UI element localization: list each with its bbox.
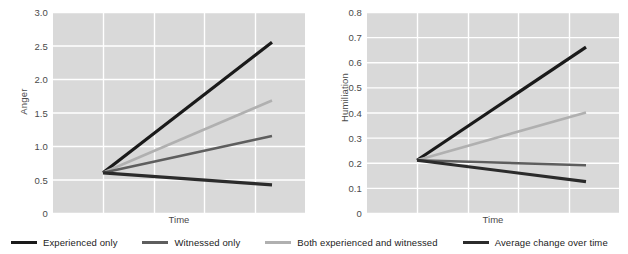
y-tick-label: 0.5 bbox=[348, 82, 362, 93]
y-tick-label: 1.5 bbox=[34, 107, 48, 118]
legend-swatch-experienced_only bbox=[11, 241, 37, 244]
y-tick-label: 0.3 bbox=[348, 132, 362, 143]
legend-item-average[interactable]: Average change over time bbox=[463, 237, 608, 248]
chart-panel-anger: Anger 00.51.01.52.02.53.0 Time bbox=[0, 0, 314, 230]
legend-label-average: Average change over time bbox=[495, 237, 608, 248]
y-tick-label: 0.1 bbox=[348, 182, 362, 193]
y-axis-ticks-right: 00.10.20.30.40.50.60.70.8 bbox=[336, 12, 362, 213]
gridlines bbox=[367, 12, 619, 213]
legend-label-witnessed_only: Witnessed only bbox=[174, 237, 240, 248]
legend-swatch-witnessed_only bbox=[142, 241, 168, 244]
x-axis-title-left: Time bbox=[53, 214, 305, 225]
legend-label-experienced_only: Experienced only bbox=[43, 237, 117, 248]
series-line bbox=[417, 113, 586, 161]
y-axis-ticks-left: 00.51.01.52.02.53.0 bbox=[22, 12, 48, 213]
series-line bbox=[417, 47, 586, 160]
figure-root: Anger 00.51.01.52.02.53.0 Time Humiliati… bbox=[0, 0, 628, 254]
plot-canvas bbox=[53, 12, 305, 213]
y-tick-label: 0 bbox=[357, 208, 362, 219]
y-tick-label: 2.0 bbox=[34, 74, 48, 85]
legend-item-witnessed_only[interactable]: Witnessed only bbox=[142, 237, 240, 248]
plot-area-humiliation bbox=[367, 12, 619, 213]
legend-swatch-average bbox=[463, 241, 489, 244]
y-tick-label: 3.0 bbox=[34, 7, 48, 18]
series-line bbox=[103, 173, 272, 185]
legend-item-experienced_only[interactable]: Experienced only bbox=[11, 237, 117, 248]
y-tick-label: 0 bbox=[43, 208, 48, 219]
y-tick-label: 0.6 bbox=[348, 57, 362, 68]
y-tick-label: 0.4 bbox=[348, 107, 362, 118]
series-line bbox=[103, 100, 272, 172]
y-tick-label: 2.5 bbox=[34, 40, 48, 51]
chart-legend: Experienced onlyWitnessed onlyBoth exper… bbox=[0, 230, 628, 254]
plot-area-anger bbox=[53, 12, 305, 213]
legend-label-both: Both experienced and witnessed bbox=[297, 237, 437, 248]
y-tick-label: 0.2 bbox=[348, 157, 362, 168]
y-tick-label: 0.5 bbox=[34, 174, 48, 185]
plot-canvas bbox=[367, 12, 619, 213]
y-tick-label: 0.7 bbox=[348, 32, 362, 43]
legend-item-both[interactable]: Both experienced and witnessed bbox=[265, 237, 437, 248]
y-tick-label: 1.0 bbox=[34, 141, 48, 152]
x-axis-title-right: Time bbox=[367, 214, 619, 225]
legend-swatch-both bbox=[265, 241, 291, 244]
chart-panel-humiliation: Humiliation 00.10.20.30.40.50.60.70.8 Ti… bbox=[314, 0, 628, 230]
y-tick-label: 0.8 bbox=[348, 7, 362, 18]
